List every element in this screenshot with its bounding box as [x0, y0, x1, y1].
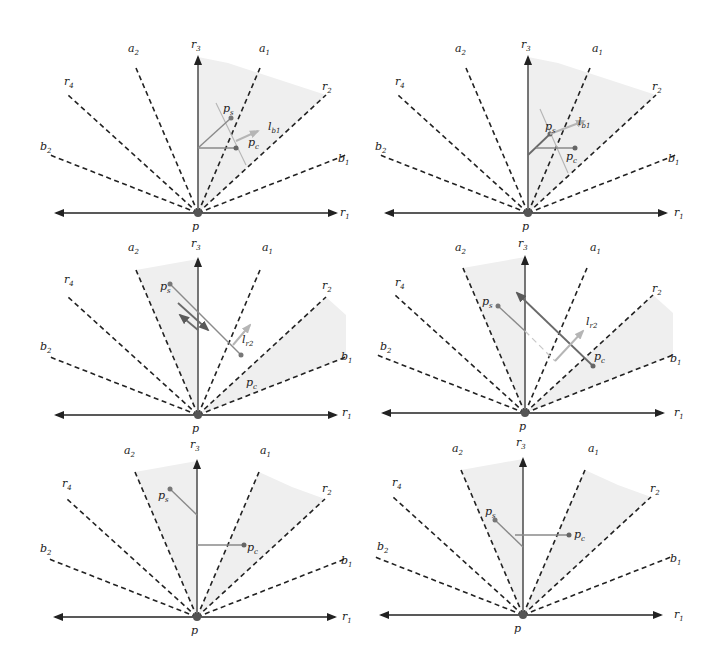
label-a1: a1 [262, 241, 273, 256]
label-r3: r3 [518, 237, 528, 252]
label-r4: r4 [62, 477, 72, 492]
label-a1: a1 [592, 42, 603, 57]
shaded-region-left [463, 257, 525, 413]
label-r2: r2 [322, 279, 332, 294]
label-r1: r1 [674, 608, 684, 623]
shaded-region-left [135, 461, 197, 617]
label-r2: r2 [652, 282, 662, 297]
label-r4: r4 [64, 75, 74, 90]
label-a2: a2 [452, 442, 464, 457]
label-p: p [522, 220, 529, 233]
label-r3: r3 [190, 438, 200, 453]
panel-1 [50, 57, 346, 217]
label-a2: a2 [455, 42, 467, 57]
label-b1: b1 [668, 152, 680, 167]
label-a1: a1 [259, 42, 270, 57]
label-b1: b1 [670, 552, 682, 567]
label-b2: b2 [377, 540, 389, 555]
label-r4: r4 [395, 75, 405, 90]
label-b1: b1 [338, 152, 350, 167]
label-r3: r3 [516, 436, 526, 451]
label-r2: r2 [652, 80, 662, 95]
label-a2: a2 [124, 444, 136, 459]
label-a1: a1 [590, 241, 601, 256]
label-r1: r1 [674, 206, 684, 221]
shaded-region [198, 57, 326, 213]
shaded-region-left [461, 459, 523, 615]
label-lr2: lr2 [242, 333, 254, 348]
panel-3 [50, 259, 346, 419]
label-r1: r1 [342, 406, 352, 421]
label-p: p [192, 422, 199, 435]
label-a2: a2 [128, 42, 140, 57]
label-b1: b1 [670, 352, 682, 367]
label-a1: a1 [588, 442, 599, 457]
panel-4 [377, 257, 673, 417]
label-r2: r2 [322, 80, 332, 95]
label-p: p [514, 622, 521, 635]
panel-2 [380, 57, 676, 217]
shaded-region [528, 57, 656, 213]
label-r4: r4 [392, 476, 402, 491]
label-p: p [519, 420, 526, 433]
label-b2: b2 [40, 140, 52, 155]
label-r3: r3 [191, 237, 201, 252]
figure-canvas: r3 a2 a1 r4 r2 b2 b1 r1 p ps pc lb1 r3 a… [0, 0, 725, 662]
panel-5 [49, 461, 345, 621]
label-r3: r3 [521, 38, 531, 53]
label-r1: r1 [674, 406, 684, 421]
label-r1: r1 [342, 610, 352, 625]
shaded-region-right [198, 297, 346, 415]
label-r3: r3 [191, 38, 201, 53]
label-r1: r1 [340, 206, 350, 221]
label-lr2: lr2 [586, 315, 598, 330]
label-b1: b1 [341, 350, 353, 365]
label-b2: b2 [40, 340, 52, 355]
label-b1: b1 [341, 554, 353, 569]
label-a2: a2 [128, 241, 140, 256]
label-a1: a1 [260, 444, 271, 459]
label-b2: b2 [380, 340, 392, 355]
label-p: p [191, 624, 198, 637]
label-b2: b2 [375, 140, 387, 155]
label-r2: r2 [650, 482, 660, 497]
label-r4: r4 [64, 273, 74, 288]
label-b2: b2 [40, 542, 52, 557]
label-p: p [192, 220, 199, 233]
label-r2: r2 [322, 482, 332, 497]
shaded-region-right [523, 470, 651, 615]
label-r4: r4 [395, 276, 405, 291]
panel-6 [375, 459, 671, 619]
label-a2: a2 [455, 241, 467, 256]
